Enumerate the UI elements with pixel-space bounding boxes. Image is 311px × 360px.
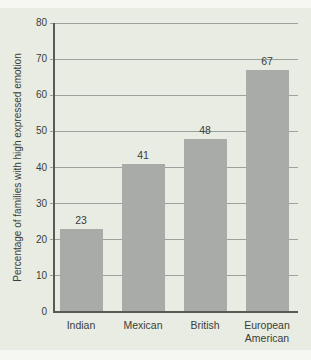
bar [246,70,289,312]
bar-value-label: 23 [61,214,101,226]
bar [184,139,227,312]
bar-value-label: 41 [123,149,163,161]
y-axis-line [53,23,55,313]
x-axis-line [53,311,298,313]
y-tick-label: 40 [17,163,47,173]
y-tick-label: 60 [17,90,47,100]
page-margin-bottom [0,350,311,360]
bar [60,229,103,312]
grid-line [50,23,298,24]
bar-value-label: 67 [247,55,287,67]
y-tick-label: 80 [17,18,47,28]
y-tick-label: 30 [17,199,47,209]
y-tick-label: 50 [17,126,47,136]
bar [122,164,165,312]
chart-figure: Percentage of families with high express… [0,0,311,360]
page-margin-top [0,0,311,8]
y-tick-label: 0 [17,307,47,317]
y-tick-label: 20 [17,235,47,245]
y-tick-label: 70 [17,54,47,64]
bar-value-label: 48 [185,124,225,136]
x-category-label: European American [230,319,304,345]
y-tick-label: 10 [17,271,47,281]
